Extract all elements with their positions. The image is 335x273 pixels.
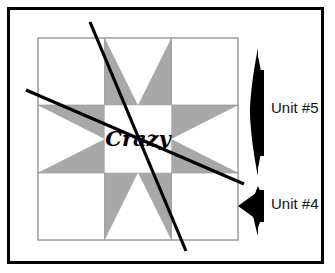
corner-square-top-right — [171, 38, 238, 105]
star-point-unit-bottom — [105, 173, 172, 240]
corner-square-top-left — [38, 38, 105, 105]
unit-4-label: Unit #4 — [271, 195, 319, 212]
star-point-unit-top — [105, 38, 172, 105]
quilt-block-diagram: Crazy Unit #5 Unit #4 — [0, 0, 335, 273]
corner-square-bottom-left — [38, 173, 105, 240]
star-point-unit-right — [171, 105, 238, 172]
diagram-canvas: Crazy Unit #5 Unit #4 — [0, 0, 335, 273]
unit-4-bar — [256, 190, 264, 222]
star-point-unit-left — [38, 105, 105, 172]
unit-5-bar — [256, 70, 264, 156]
unit-5-label: Unit #5 — [271, 99, 319, 116]
corner-square-bottom-right — [171, 173, 238, 240]
